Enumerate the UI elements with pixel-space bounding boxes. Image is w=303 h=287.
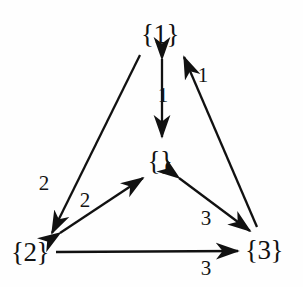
graph-diagram: {1} {} {2} {3} 1 1 2 2 3 3 [0, 0, 303, 287]
edge-label-2-3: 3 [201, 258, 212, 279]
edge-label-1-empty: 1 [158, 85, 169, 106]
edge-1-to-2 [52, 55, 140, 233]
edge-label-1-2: 2 [39, 173, 50, 194]
edge-3-to-1 [184, 57, 257, 227]
node-label-empty-set: {} [148, 148, 173, 175]
edge-label-2-empty: 2 [80, 190, 91, 211]
edge-2-to-empty [60, 178, 143, 233]
node-label-set2: {2} [11, 239, 49, 266]
edge-label-3-1: 1 [198, 65, 209, 86]
edge-2-to-3 [56, 251, 238, 252]
node-label-set1: {1} [141, 21, 179, 48]
edge-label-empty-3: 3 [201, 208, 212, 229]
node-label-set3: {3} [245, 237, 283, 264]
